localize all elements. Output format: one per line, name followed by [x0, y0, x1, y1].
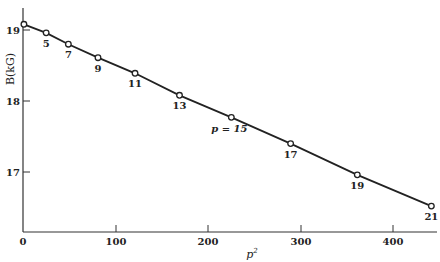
data-point — [66, 41, 72, 47]
y-axis-label: B(kG) — [4, 53, 17, 85]
chart-canvas: 19 18 17 0 100 200 300 400 B(kG) p2 5791… — [0, 0, 440, 262]
data-point — [177, 93, 183, 99]
data-point — [21, 22, 27, 28]
point-label: 21 — [424, 211, 438, 222]
trend-line — [24, 24, 431, 206]
point-label: 7 — [65, 49, 72, 60]
x-axis-label: p2 — [246, 247, 258, 261]
data-point — [95, 55, 101, 61]
data-point — [354, 172, 360, 178]
data-point — [132, 71, 138, 77]
point-label: 17 — [284, 149, 298, 160]
data-point — [429, 203, 435, 209]
data-point — [229, 115, 235, 121]
point-label: 11 — [128, 78, 142, 89]
data-series: 5791113p = 15171921 — [21, 22, 438, 223]
x-tick-300: 300 — [291, 236, 312, 247]
y-tick-18: 18 — [6, 96, 20, 107]
y-tick-19: 19 — [6, 25, 20, 36]
y-ticks: 19 18 17 — [6, 25, 30, 178]
point-label: 5 — [43, 38, 50, 49]
data-point — [288, 141, 294, 147]
point-label: 9 — [95, 63, 102, 74]
x-tick-100: 100 — [106, 236, 127, 247]
point-label: p = 15 — [211, 123, 247, 134]
x-tick-0: 0 — [20, 236, 27, 247]
point-label: 19 — [350, 180, 364, 191]
x-tick-200: 200 — [198, 236, 219, 247]
point-label: 13 — [173, 100, 187, 111]
x-ticks: 0 100 200 300 400 — [20, 225, 404, 247]
data-point — [43, 30, 49, 36]
y-tick-17: 17 — [6, 167, 20, 178]
x-tick-400: 400 — [383, 236, 404, 247]
chart: 19 18 17 0 100 200 300 400 B(kG) p2 5791… — [0, 0, 440, 262]
